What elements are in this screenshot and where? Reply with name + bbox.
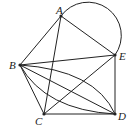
point-C — [42, 112, 45, 115]
segment-AC — [44, 16, 61, 114]
label-B: B — [9, 59, 16, 71]
label-A: A — [55, 4, 63, 16]
point-D — [113, 112, 116, 115]
segment-BD — [20, 65, 115, 114]
label-C: C — [35, 115, 43, 127]
label-E: E — [118, 50, 126, 62]
label-D: D — [117, 110, 126, 122]
segment-CE — [44, 55, 115, 114]
segment-AE — [61, 16, 115, 55]
point-B — [18, 63, 21, 66]
arc-AE — [61, 2, 121, 55]
point-E — [113, 53, 116, 56]
segment-BE — [20, 55, 115, 65]
geometry-figure: A B C D E — [0, 0, 133, 130]
segment-AB — [20, 16, 61, 65]
